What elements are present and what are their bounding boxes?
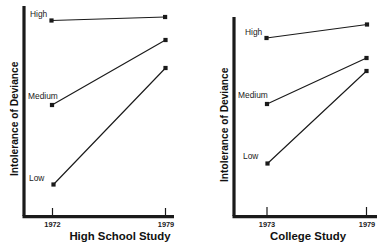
panel-title-high-school: High School Study (69, 230, 171, 242)
line-college-medium (267, 58, 367, 104)
line-high-school-low (54, 68, 166, 185)
series-high-school-high (49, 15, 167, 23)
level-label-college-low: Low (243, 151, 259, 161)
point-college-medium-1979 (364, 56, 368, 60)
panel-title-college: College Study (270, 230, 347, 242)
point-college-high-1973 (264, 36, 268, 40)
series-high-school-medium (50, 38, 168, 107)
point-high-school-low-1979 (163, 66, 167, 70)
y-axis-title-college: Intolerance of Deviance (219, 67, 230, 182)
level-label-high-school-high: High (30, 9, 48, 19)
series-college-low (265, 69, 368, 166)
line-college-high (267, 25, 368, 39)
series-college-high (264, 22, 369, 40)
point-high-school-low-1972 (51, 182, 55, 186)
x-tick-label-high-school-start: 1972 (44, 220, 60, 229)
figure-two-panel-line-charts: High Medium Low 1972 1979 High School St… (0, 0, 384, 244)
point-college-medium-1973 (265, 102, 269, 106)
x-tick-label-college-end: 1979 (359, 220, 375, 229)
series-college-medium (265, 56, 369, 106)
line-college-low (268, 71, 367, 164)
line-high-school-high (52, 17, 166, 21)
level-label-college-medium: Medium (238, 90, 268, 100)
point-high-school-medium-1972 (50, 103, 54, 107)
level-label-high-school-low: Low (29, 173, 45, 183)
panel-high-school-study: High Medium Low 1972 1979 High School St… (9, 6, 175, 242)
point-college-low-1979 (364, 69, 368, 73)
panel-college-study: High Medium Low 1973 1979 College Study … (219, 17, 377, 242)
point-college-high-1979 (365, 22, 369, 26)
line-high-school-medium (52, 40, 166, 105)
series-high-school-low (51, 66, 167, 187)
charts-svg: High Medium Low 1972 1979 High School St… (0, 0, 384, 244)
x-tick-label-college-start: 1973 (259, 220, 275, 229)
x-tick-label-high-school-end: 1979 (158, 220, 174, 229)
point-high-school-medium-1979 (163, 38, 167, 42)
point-college-low-1973 (265, 161, 269, 165)
point-high-school-high-1972 (49, 18, 53, 22)
point-high-school-high-1979 (163, 15, 167, 19)
level-label-college-high: High (245, 27, 263, 37)
level-label-high-school-medium: Medium (28, 91, 58, 101)
y-axis-title-high-school: Intolerance of Deviance (9, 61, 20, 176)
